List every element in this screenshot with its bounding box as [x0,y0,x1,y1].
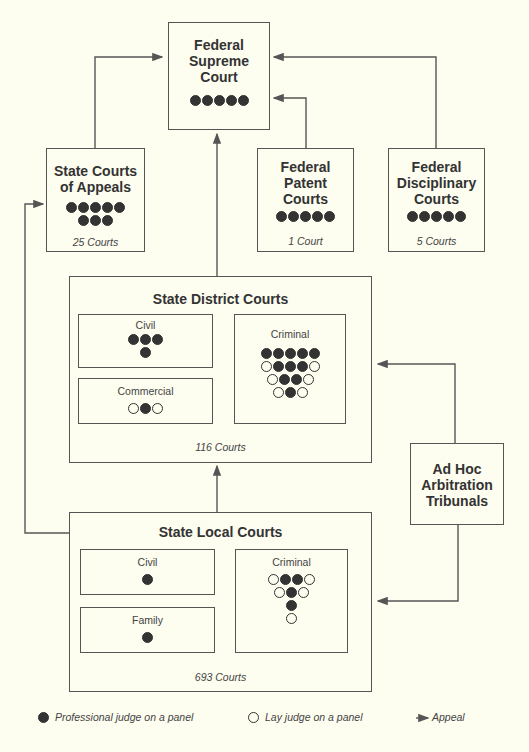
judge-row [235,387,345,398]
professional-judge-icon [273,361,284,372]
professional-judge-icon [142,632,153,643]
professional-judge-icon [102,215,113,226]
title-line: Supreme [169,53,269,69]
judge-row [81,632,214,643]
professional-judge-icon [431,211,442,222]
lay-judge-icon [128,403,139,414]
division-label: Civil [79,319,212,331]
judge-panel [79,334,212,360]
division-label: Commercial [79,385,212,397]
court-count: 116 Courts [70,441,371,453]
judge-panel [79,403,212,416]
judge-panel [258,211,353,224]
state-courts-of-appeals-box: State Courts of Appeals 25 Courts [46,148,145,252]
section-title: State Local Courts [70,524,371,540]
ad-hoc-arbitration-tribunals-box: Ad Hoc Arbitration Tribunals [410,443,504,525]
court-count: 1 Court [258,235,353,247]
title-line: State Courts [47,163,144,179]
professional-judge-icon [285,387,296,398]
district-commercial-box: Commercial [78,378,213,424]
division-label: Civil [81,556,214,568]
judge-row [236,587,347,598]
professional-judge-icon [292,574,303,585]
title-line: Federal [389,159,484,175]
legend-label: Lay judge on a panel [265,711,363,723]
title-line: Courts [389,191,484,207]
judge-row [235,348,345,359]
professional-judge-icon [288,211,299,222]
lay-judge-icon [304,574,315,585]
professional-judge-icon [90,215,101,226]
judge-row [236,600,347,611]
judge-row [47,202,144,213]
professional-judge-icon [286,587,297,598]
court-count: 5 Courts [389,235,484,247]
lay-judge-icon [267,374,278,385]
professional-judge-icon [300,211,311,222]
lay-judge-icon [286,613,297,624]
professional-judge-icon [66,202,77,213]
judge-row [235,361,345,372]
legend-appeal: Appeal [432,711,465,723]
professional-judge-icon [443,211,454,222]
professional-judge-icon [261,348,272,359]
judge-row [47,215,144,226]
professional-judge-icon [276,211,287,222]
professional-judge-icon [324,211,335,222]
judge-panel [47,202,144,228]
judge-row [389,211,484,222]
professional-judge-icon [238,95,249,106]
court-count: 693 Courts [70,671,371,683]
lay-judge-icon [298,587,309,598]
professional-judge-icon [142,574,153,585]
lay-judge-icon [309,361,320,372]
professional-judge-icon [285,361,296,372]
title-line: Patent [258,175,353,191]
state-local-courts-box: State Local Courts Civil Family Criminal… [69,512,372,692]
federal-patent-courts-box: Federal Patent Courts 1 Court [257,148,354,252]
professional-judge-icon [291,374,302,385]
judge-row [258,211,353,222]
judge-row [236,613,347,624]
title-line: Federal [258,159,353,175]
lay-judge-icon [273,387,284,398]
professional-judge-icon [128,334,139,345]
professional-judge-icon [202,95,213,106]
judge-row [79,347,212,358]
professional-judge-icon [140,403,151,414]
judge-panel [235,348,345,400]
judge-row [81,574,214,585]
division-label: Criminal [236,556,347,568]
lay-judge-icon [297,387,308,398]
professional-judge-icon [214,95,225,106]
professional-judge-icon [407,211,418,222]
judge-row [236,574,347,585]
division-label: Family [81,614,214,626]
section-title: State District Courts [70,291,371,307]
professional-judge-icon [114,202,125,213]
title-line: Arbitration [411,477,503,493]
professional-judge-icon [455,211,466,222]
lay-judge-icon [261,361,272,372]
judge-panel [169,95,269,108]
professional-judge-icon [90,202,101,213]
court-count: 25 Courts [47,236,144,248]
legend-professional: Professional judge on a panel [38,711,193,723]
legend-label: Appeal [432,711,465,723]
judge-panel [81,574,214,587]
professional-judge-icon [140,334,151,345]
title-line: Courts [258,191,353,207]
title-line: Ad Hoc [411,461,503,477]
professional-judge-icon [312,211,323,222]
professional-judge-icon [279,374,290,385]
professional-judge-icon [297,348,308,359]
judge-row [169,95,269,106]
judge-panel [81,632,214,645]
professional-judge-icon [419,211,430,222]
legend-label: Professional judge on a panel [55,711,193,723]
title-line: Tribunals [411,493,503,509]
judge-row [235,374,345,385]
local-criminal-box: Criminal [235,549,348,653]
judge-row [79,403,212,414]
professional-judge-icon [38,712,49,723]
